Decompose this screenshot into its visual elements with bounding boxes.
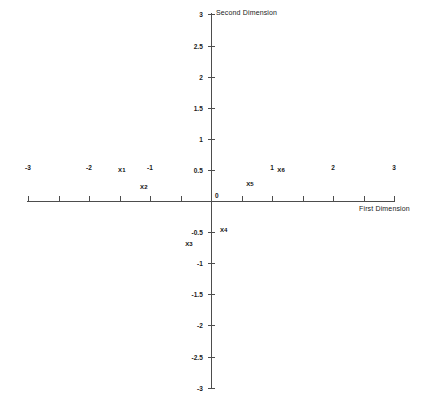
y-axis-tick [208, 170, 215, 171]
y-axis-tick [208, 263, 215, 264]
y-axis-tick [208, 294, 215, 295]
x-axis-tick [150, 196, 151, 201]
y-axis-tick [208, 357, 215, 358]
y-axis-tick [208, 77, 215, 78]
x-axis-tick [181, 196, 182, 201]
x-axis-tick [333, 196, 334, 201]
data-point-label: X2 [140, 184, 148, 190]
y-axis-tick-label: 0.5 [179, 166, 203, 173]
dimension-scatter-plot: -3-2-10123 32.521.510.5-0.5-1-1.5-2-2.5-… [0, 0, 427, 403]
x-axis-tick [28, 196, 29, 201]
y-axis-tick [208, 325, 215, 326]
x-axis-title: First Dimension [359, 205, 410, 212]
data-point-label: X5 [246, 181, 254, 187]
y-axis-tick-label: -3 [179, 384, 203, 391]
x-axis-tick-label: -1 [147, 164, 153, 171]
data-point-label: X4 [220, 227, 228, 233]
x-axis-tick [89, 196, 90, 201]
y-axis-tick-label: 1 [179, 135, 203, 142]
x-axis-tick [272, 196, 273, 201]
x-axis-tick-label: -3 [25, 164, 31, 171]
x-axis-tick [303, 196, 304, 201]
x-axis-tick-label: 2 [331, 164, 335, 171]
y-axis-tick-label: 2 [179, 73, 203, 80]
y-axis-tick-label: -2.5 [179, 353, 203, 360]
y-axis-title: Second Dimension [216, 9, 277, 16]
x-axis-tick [242, 196, 243, 201]
y-axis-tick-label: -2 [179, 322, 203, 329]
y-axis-tick [208, 139, 215, 140]
y-axis-line [211, 13, 212, 388]
x-axis-tick [394, 196, 395, 201]
data-point-label: X3 [185, 241, 193, 247]
x-axis-tick [364, 196, 365, 201]
y-axis-tick-label: -0.5 [179, 229, 203, 236]
data-point-label: X1 [118, 167, 126, 173]
x-axis-tick [120, 196, 121, 201]
y-axis-tick-label: -1.5 [179, 291, 203, 298]
y-axis-tick [208, 388, 215, 389]
y-axis-tick-label: 2.5 [179, 42, 203, 49]
y-axis-tick [208, 232, 215, 233]
data-point-label: X6 [277, 167, 285, 173]
x-axis-tick-label: 1 [270, 164, 274, 171]
y-axis-tick [208, 46, 215, 47]
y-axis-tick [208, 108, 215, 109]
x-axis-tick-label: 3 [392, 164, 396, 171]
y-axis-tick [208, 14, 215, 15]
y-axis-tick-label: 3 [179, 11, 203, 18]
x-axis-tick-label: -2 [86, 164, 92, 171]
x-axis-tick-label: 0 [215, 192, 219, 199]
y-axis-tick-label: 1.5 [179, 104, 203, 111]
x-axis-tick [59, 196, 60, 201]
y-axis-tick-label: -1 [179, 260, 203, 267]
